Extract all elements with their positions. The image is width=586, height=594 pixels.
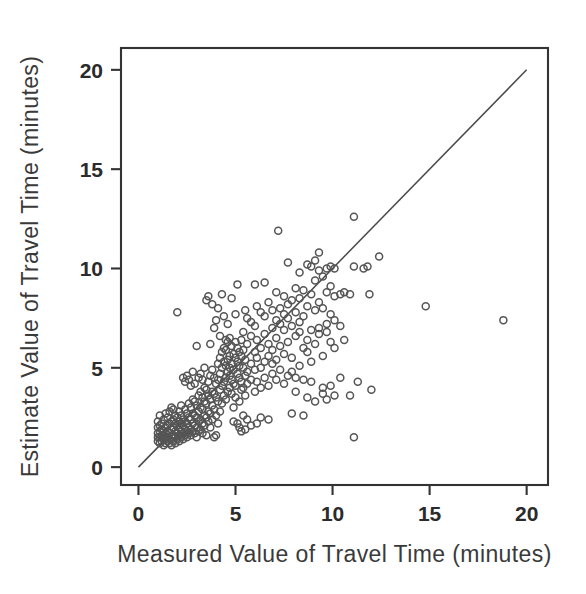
data-point xyxy=(304,394,311,401)
y-tick-label: 15 xyxy=(80,158,104,181)
data-point xyxy=(261,279,268,286)
y-tick-label: 20 xyxy=(80,59,103,82)
data-point xyxy=(281,350,288,357)
y-axis: 05101520 xyxy=(80,59,121,479)
data-point xyxy=(253,337,260,344)
data-point xyxy=(323,396,330,403)
data-point xyxy=(269,307,276,314)
x-tick-label: 0 xyxy=(133,502,145,525)
data-point xyxy=(312,398,319,405)
data-point xyxy=(366,291,373,298)
data-point xyxy=(211,325,218,332)
data-point xyxy=(296,362,303,369)
data-point xyxy=(308,378,315,385)
data-point xyxy=(327,382,334,389)
data-point xyxy=(234,281,241,288)
data-point xyxy=(281,380,288,387)
data-point xyxy=(288,354,295,361)
data-point xyxy=(337,323,344,330)
data-point xyxy=(354,378,361,385)
data-point xyxy=(500,317,507,324)
y-axis-title: Estimate Value of Travel Time (minutes) xyxy=(17,56,43,478)
data-point xyxy=(201,364,208,371)
scatter-plot-figure: 0510152005101520Measured Value of Travel… xyxy=(0,0,586,594)
y-tick-label: 0 xyxy=(91,456,103,479)
data-point xyxy=(341,337,348,344)
x-tick-label: 10 xyxy=(321,502,344,525)
data-point xyxy=(242,307,249,314)
data-point xyxy=(265,416,272,423)
data-point xyxy=(261,374,268,381)
data-point xyxy=(350,263,357,270)
data-point xyxy=(240,329,247,336)
data-point xyxy=(215,420,222,427)
y-tick-label: 10 xyxy=(80,257,103,280)
data-point xyxy=(331,317,338,324)
data-point xyxy=(273,335,280,342)
data-point xyxy=(292,309,299,316)
data-point xyxy=(308,291,315,298)
data-point xyxy=(275,227,282,234)
data-point xyxy=(350,213,357,220)
data-point xyxy=(304,337,311,344)
data-point xyxy=(220,313,227,320)
data-point xyxy=(376,253,383,260)
data-point xyxy=(312,257,319,264)
x-tick-label: 15 xyxy=(418,502,442,525)
data-point xyxy=(300,313,307,320)
x-axis-title: Measured Value of Travel Time (minutes) xyxy=(117,541,551,567)
data-point xyxy=(251,281,258,288)
data-point xyxy=(422,303,429,310)
data-point xyxy=(296,295,303,302)
data-point xyxy=(261,331,268,338)
data-point xyxy=(323,321,330,328)
data-point xyxy=(323,329,330,336)
data-point xyxy=(230,404,237,411)
data-point xyxy=(265,299,272,306)
data-point xyxy=(308,358,315,365)
x-tick-label: 5 xyxy=(230,502,242,525)
x-tick-label: 20 xyxy=(515,502,538,525)
data-point xyxy=(331,392,338,399)
data-point xyxy=(193,342,200,349)
data-point xyxy=(350,434,357,441)
data-point xyxy=(327,283,334,290)
data-point xyxy=(300,376,307,383)
data-point xyxy=(331,344,338,351)
data-point xyxy=(273,376,280,383)
chart-canvas: 0510152005101520Measured Value of Travel… xyxy=(0,0,586,594)
data-point xyxy=(244,340,251,347)
data-point xyxy=(288,410,295,417)
data-point xyxy=(292,388,299,395)
data-point xyxy=(215,305,222,312)
y-tick-label: 5 xyxy=(91,357,103,380)
data-point xyxy=(174,309,181,316)
data-point xyxy=(277,366,284,373)
data-point xyxy=(300,287,307,294)
data-point xyxy=(296,269,303,276)
data-point xyxy=(277,342,284,349)
scatter-points xyxy=(154,213,506,448)
data-point xyxy=(273,289,280,296)
data-point xyxy=(281,327,288,334)
data-point xyxy=(257,344,264,351)
data-point xyxy=(312,307,319,314)
data-point xyxy=(189,368,196,375)
data-point xyxy=(312,277,319,284)
data-point xyxy=(242,392,249,399)
data-point xyxy=(308,327,315,334)
data-point xyxy=(292,374,299,381)
data-point xyxy=(312,340,319,347)
data-point xyxy=(218,291,225,298)
data-point xyxy=(257,414,264,421)
data-point xyxy=(288,323,295,330)
data-point xyxy=(281,293,288,300)
data-point xyxy=(315,249,322,256)
data-point xyxy=(368,386,375,393)
data-point xyxy=(224,321,231,328)
data-point xyxy=(265,382,272,389)
data-point xyxy=(304,303,311,310)
data-point xyxy=(213,317,220,324)
data-point xyxy=(232,311,239,318)
data-point xyxy=(207,340,214,347)
